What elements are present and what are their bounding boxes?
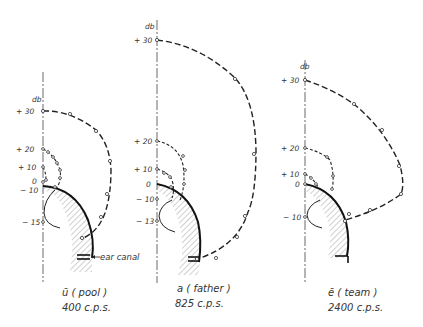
frequency-label: 400 c.p.s. <box>62 302 111 313</box>
tick-label: + 10 <box>134 165 152 174</box>
frequency-label: 825 c.p.s. <box>175 298 224 309</box>
panel-pool: db + 30 + 20 + 10 0 − 10 − 15 ear canal <box>16 72 140 313</box>
tick-label: + 20 <box>16 145 34 154</box>
tick-label: − 10 <box>283 213 301 222</box>
db-label: db <box>300 62 310 71</box>
head-section <box>305 184 349 258</box>
frequency-label: 2400 c.p.s. <box>328 302 383 313</box>
tick-label: + 10 <box>281 170 299 179</box>
tick-label: 0 <box>32 177 37 186</box>
tick-label: − 13 <box>136 217 154 226</box>
tick-label: 0 <box>146 180 151 189</box>
tick-label: − 10 <box>136 195 154 204</box>
vowel-label: a ( father ) <box>177 283 231 294</box>
tick-label: + 30 <box>281 76 299 85</box>
vowel-label: ē ( team ) <box>328 287 377 298</box>
curve-10db <box>43 167 46 180</box>
tick-label: 0 <box>295 180 300 189</box>
curve-20db <box>43 149 60 190</box>
db-label: db <box>32 95 42 104</box>
tick-label: + 10 <box>18 163 36 172</box>
vowel-label: ū ( pool ) <box>62 287 107 298</box>
tick-label: − 15 <box>22 218 40 227</box>
tick-label: + 30 <box>134 36 152 45</box>
tick-label: + 30 <box>16 107 34 116</box>
curve-30db <box>157 40 256 258</box>
panel-father: db + 30 + 20 + 10 0 − 10 − 13 <box>134 20 256 309</box>
directivity-diagram: db + 30 + 20 + 10 0 − 10 − 15 ear canal <box>0 0 423 327</box>
panel-team: db + 30 + 20 + 10 0 − 10 ē ( tea <box>281 60 403 313</box>
tick-label: + 20 <box>281 144 299 153</box>
curve-20db <box>305 148 333 190</box>
db-label: db <box>145 22 155 31</box>
tick-label: − 10 <box>20 186 38 195</box>
tick-label: + 20 <box>134 137 152 146</box>
ear-canal-label: ear canal <box>100 252 140 262</box>
